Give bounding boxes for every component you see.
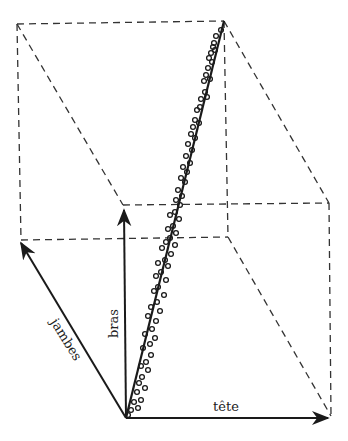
data-point — [184, 154, 189, 159]
data-point — [181, 165, 186, 170]
data-point — [179, 176, 184, 181]
data-point — [166, 227, 171, 232]
data-point — [162, 293, 167, 298]
data-point — [177, 217, 182, 222]
bounding-box-dashed — [17, 21, 331, 416]
data-point — [154, 274, 159, 279]
diagram-canvas: tête bras jambes — [0, 0, 348, 441]
data-point — [166, 264, 171, 269]
data-point — [214, 34, 219, 39]
data-point — [169, 252, 174, 257]
data-point — [164, 278, 169, 283]
axes — [21, 210, 328, 418]
data-point — [136, 406, 141, 411]
axis-label-tete: tête — [213, 399, 239, 414]
data-point — [186, 142, 191, 147]
data-point — [154, 319, 159, 324]
axis-arrow-bras — [124, 210, 126, 418]
data-point — [195, 108, 200, 113]
data-point — [150, 327, 155, 332]
data-point — [191, 125, 196, 130]
box-edge — [123, 203, 329, 205]
data-point — [143, 386, 148, 391]
data-point — [174, 198, 179, 203]
data-point — [174, 231, 179, 236]
3d-scatter-diagram: tête bras jambes — [0, 0, 348, 441]
data-point — [156, 261, 161, 266]
data-point — [176, 188, 181, 193]
data-point — [149, 353, 154, 358]
data-point — [189, 132, 194, 137]
data-point — [206, 66, 211, 71]
data-point — [146, 368, 151, 373]
data-point — [139, 398, 144, 403]
data-point — [202, 79, 207, 84]
box-edge — [224, 21, 329, 203]
data-point — [144, 360, 149, 365]
data-point — [153, 336, 158, 341]
regression-line — [126, 21, 224, 418]
box-edge — [17, 21, 224, 24]
data-point — [199, 97, 204, 102]
data-point — [160, 246, 165, 251]
axis-label-bras: bras — [106, 309, 121, 338]
data-point — [164, 240, 169, 245]
data-point — [135, 390, 140, 395]
box-edge — [329, 203, 331, 416]
data-point — [204, 73, 209, 78]
box-edge — [228, 237, 331, 416]
box-edge — [17, 24, 123, 205]
data-point — [140, 375, 145, 380]
data-point — [152, 289, 157, 294]
data-point — [158, 309, 163, 314]
data-point — [148, 342, 153, 347]
data-point — [168, 213, 173, 218]
box-edge — [17, 24, 21, 240]
data-point — [132, 400, 137, 405]
data-point — [137, 381, 142, 386]
data-point — [173, 243, 178, 248]
